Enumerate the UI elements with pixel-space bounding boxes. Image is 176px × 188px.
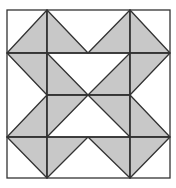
background <box>0 0 176 188</box>
quilt-block-diagram <box>0 0 176 188</box>
